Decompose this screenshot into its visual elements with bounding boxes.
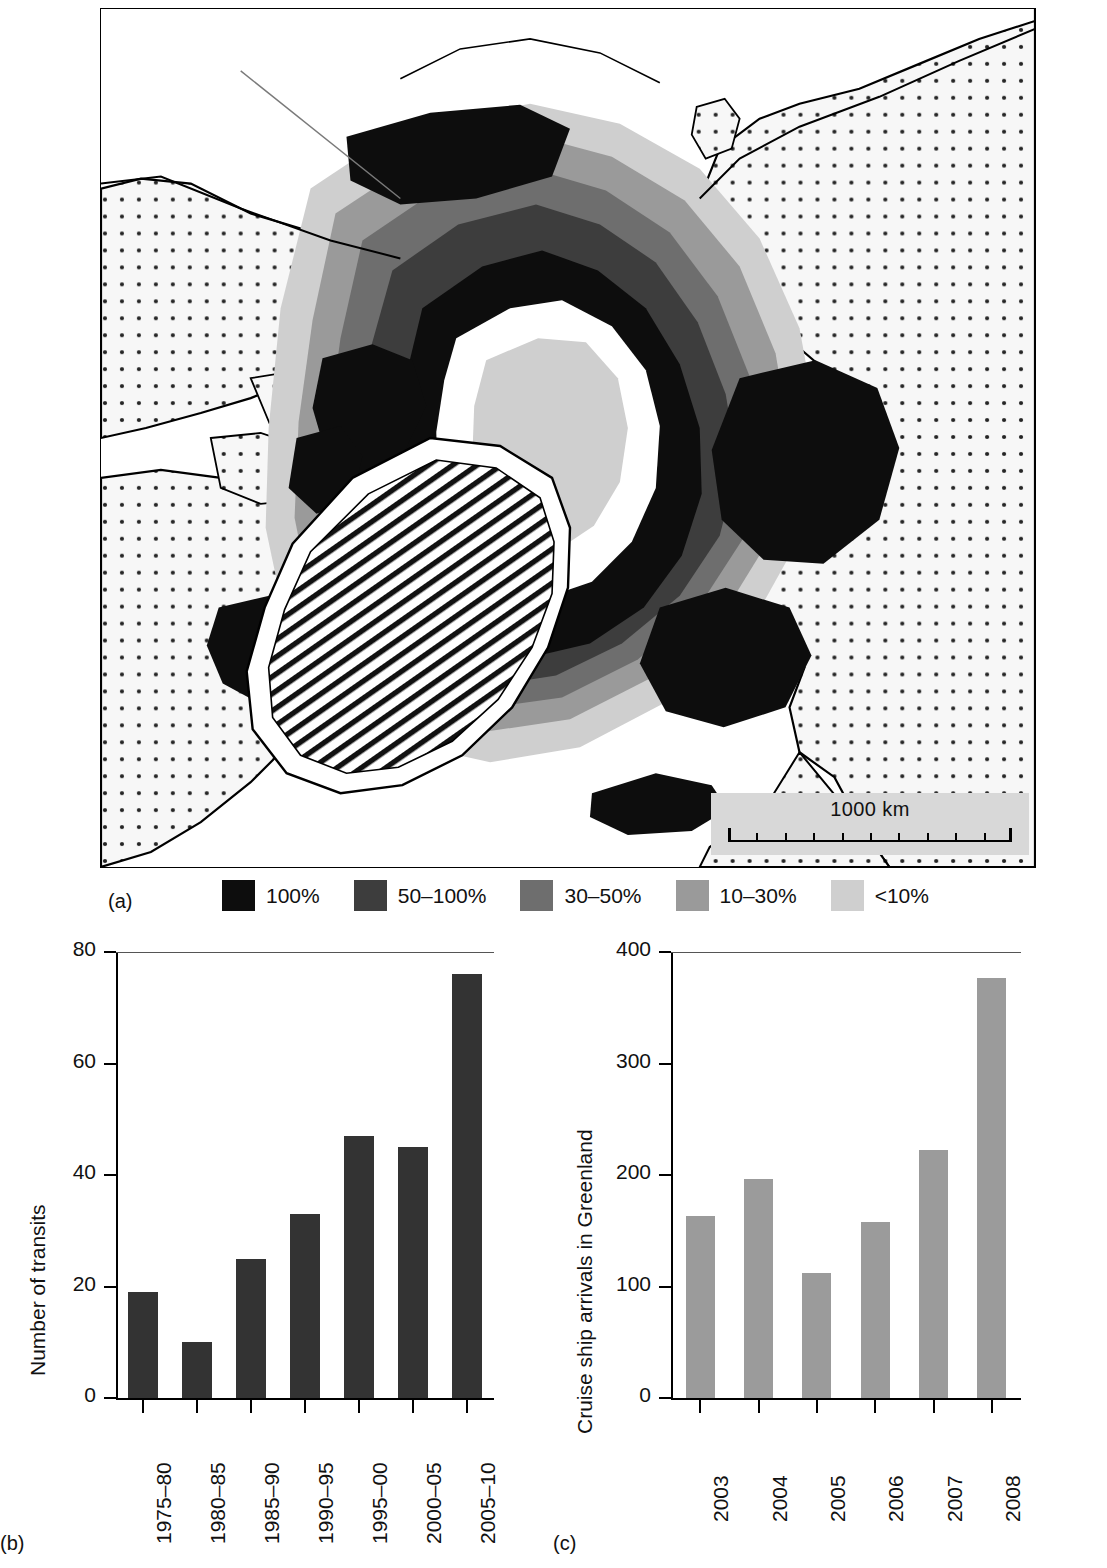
- x-tick-label-2006: 2006: [884, 1475, 908, 1522]
- y-tick-mark: [104, 1063, 116, 1065]
- x-tick-mark: [816, 1400, 818, 1413]
- x-tick-label-2007: 2007: [943, 1475, 967, 1522]
- y-tick-mark: [104, 1174, 116, 1176]
- plot-top-rule: [116, 952, 494, 953]
- x-tick-mark: [358, 1400, 360, 1413]
- bar-2007: [919, 1150, 948, 1398]
- scale-tick-end: [1009, 828, 1012, 842]
- bar-2000–05: [398, 1147, 428, 1398]
- y-tick-label: 300: [585, 1049, 651, 1073]
- bar-1980–85: [182, 1342, 212, 1398]
- scale-bar-label: 1000 km: [830, 798, 910, 821]
- y-tick-mark: [104, 1397, 116, 1399]
- y-tick-mark: [104, 1286, 116, 1288]
- x-tick-mark: [699, 1400, 701, 1413]
- legend-swatch-icon: [831, 880, 864, 911]
- legend-item-2: 30–50%: [520, 880, 641, 911]
- x-tick-mark: [142, 1400, 144, 1413]
- y-tick-label: 40: [30, 1160, 96, 1184]
- arctic-map-graphic: [101, 9, 1035, 867]
- map-legend: (a) 100%50–100%30–50%10–30%<10%: [0, 880, 1107, 928]
- ice-tongue-barents: [640, 588, 812, 728]
- bar-2005–10: [452, 974, 482, 1398]
- map-frame: 1000 km: [100, 8, 1036, 868]
- scale-tick-start: [728, 828, 731, 842]
- y-axis-line: [116, 952, 118, 1398]
- bar-2008: [977, 978, 1006, 1398]
- x-tick-mark: [412, 1400, 414, 1413]
- y-tick-label: 20: [30, 1272, 96, 1296]
- x-tick-label-1990–95: 1990–95: [314, 1462, 338, 1544]
- legend-label: 30–50%: [564, 884, 641, 908]
- legend-swatch-icon: [354, 880, 387, 911]
- x-tick-mark: [991, 1400, 993, 1413]
- y-tick-label: 0: [585, 1383, 651, 1407]
- bar-1985–90: [236, 1259, 266, 1398]
- scale-bar: 1000 km: [711, 793, 1029, 855]
- y-tick-mark: [659, 1286, 671, 1288]
- x-tick-label-1985–90: 1985–90: [260, 1462, 284, 1544]
- x-tick-label-1980–85: 1980–85: [206, 1462, 230, 1544]
- x-tick-mark: [196, 1400, 198, 1413]
- legend-items: 100%50–100%30–50%10–30%<10%: [222, 880, 929, 911]
- x-tick-mark: [304, 1400, 306, 1413]
- bar-1995–00: [344, 1136, 374, 1398]
- chart-panel-transits: Number of transits 0204060801975–801980–…: [0, 936, 553, 1568]
- panel-label-a: (a): [108, 890, 132, 913]
- y-tick-label: 60: [30, 1049, 96, 1073]
- legend-swatch-icon: [222, 880, 255, 911]
- y-tick-label: 80: [30, 937, 96, 961]
- bar-1990–95: [290, 1214, 320, 1398]
- bar-2003: [686, 1216, 715, 1398]
- legend-item-1: 50–100%: [354, 880, 487, 911]
- legend-label: 10–30%: [720, 884, 797, 908]
- y-tick-mark: [659, 951, 671, 953]
- scale-tick: [898, 833, 900, 842]
- x-tick-label-2004: 2004: [768, 1475, 792, 1522]
- plot-area-b: 0204060801975–801980–851985–901990–95199…: [116, 952, 494, 1398]
- x-tick-label-2008: 2008: [1001, 1475, 1025, 1522]
- map-panel: 1000 km: [100, 8, 1036, 868]
- x-tick-label-2003: 2003: [709, 1475, 733, 1522]
- x-tick-label-2005–10: 2005–10: [476, 1462, 500, 1544]
- x-tick-mark: [933, 1400, 935, 1413]
- y-tick-mark: [659, 1174, 671, 1176]
- x-tick-mark: [874, 1400, 876, 1413]
- scale-tick: [870, 833, 872, 842]
- scale-tick: [813, 833, 815, 842]
- y-tick-mark: [104, 951, 116, 953]
- bar-2005: [802, 1273, 831, 1398]
- legend-label: 50–100%: [398, 884, 487, 908]
- legend-swatch-icon: [520, 880, 553, 911]
- y-tick-label: 200: [585, 1160, 651, 1184]
- bar-2004: [744, 1179, 773, 1398]
- legend-swatch-icon: [676, 880, 709, 911]
- scale-tick: [927, 833, 929, 842]
- y-tick-mark: [659, 1397, 671, 1399]
- panel-label-b: (b): [0, 1532, 24, 1555]
- x-axis-line: [671, 1398, 1021, 1400]
- x-tick-mark: [758, 1400, 760, 1413]
- x-tick-label-1995–00: 1995–00: [368, 1462, 392, 1544]
- plot-top-rule: [671, 952, 1021, 953]
- x-tick-label-2005: 2005: [826, 1475, 850, 1522]
- legend-label: 100%: [266, 884, 320, 908]
- scale-tick: [955, 833, 957, 842]
- x-tick-label-1975–80: 1975–80: [152, 1462, 176, 1544]
- scale-tick: [842, 833, 844, 842]
- scale-tick: [984, 833, 986, 842]
- y-tick-label: 400: [585, 937, 651, 961]
- y-tick-mark: [659, 1063, 671, 1065]
- y-tick-label: 100: [585, 1272, 651, 1296]
- x-tick-mark: [250, 1400, 252, 1413]
- x-tick-mark: [466, 1400, 468, 1413]
- legend-item-0: 100%: [222, 880, 320, 911]
- plot-area-c: 0100200300400200320042005200620072008: [671, 952, 1021, 1398]
- bar-2006: [861, 1222, 890, 1398]
- scale-bar-ruler: [728, 826, 1012, 842]
- legend-label: <10%: [875, 884, 929, 908]
- chart-panel-cruise: Cruise ship arrivals in Greenland 010020…: [553, 936, 1107, 1568]
- legend-item-4: <10%: [831, 880, 929, 911]
- x-tick-label-2000–05: 2000–05: [422, 1462, 446, 1544]
- legend-item-3: 10–30%: [676, 880, 797, 911]
